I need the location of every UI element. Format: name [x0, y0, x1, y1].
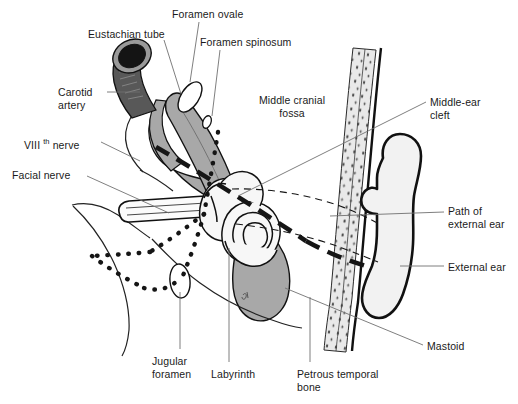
labyrinth-group: [200, 171, 281, 266]
contour-mastoid-tip: [272, 320, 302, 328]
label-foramen-ovale: Foramen ovale: [172, 8, 243, 21]
leader-foramen-ovale: [190, 22, 199, 82]
label-viii-nerve: VIII th nerve: [24, 136, 79, 151]
dotted-lower: [92, 256, 144, 288]
foramen-spinosum: [201, 115, 213, 130]
label-external-ear: External ear: [448, 261, 506, 274]
label-jugular-foramen: Jugular foramen: [152, 355, 191, 380]
label-petrous-temporal-bone: Petrous temporal bone: [297, 368, 379, 393]
label-middle-ear-cleft: Middle-ear cleft: [430, 96, 481, 121]
contour-upper-left: [126, 117, 143, 172]
leader-eustachian-tube: [164, 40, 181, 94]
contour-lower-jaw: [122, 330, 129, 356]
label-middle-cranial-fossa: Middle cranial fossa: [249, 94, 335, 119]
label-carotid-artery: Carotid artery: [58, 86, 93, 111]
ordinal-suffix: th: [43, 137, 49, 146]
label-eustachian-tube: Eustachian tube: [88, 28, 165, 41]
label-facial-nerve: Facial nerve: [12, 169, 70, 182]
leader-foramen-spinosum: [212, 50, 220, 116]
anatomical-figure: Eustachian tube Foramen ovale Foramen sp…: [0, 0, 518, 404]
label-labyrinth: Labyrinth: [211, 368, 255, 381]
label-foramen-spinosum: Foramen spinosum: [200, 36, 291, 49]
label-path-of-external-ear: Path of external ear: [448, 205, 505, 230]
contour-mandible: [73, 206, 129, 330]
carotid-artery-group: [107, 32, 157, 118]
contour-nerve-canal: [140, 170, 173, 191]
leader-viii-nerve: [101, 142, 140, 161]
dotted-horizontal: [92, 252, 150, 256]
label-mastoid: Mastoid: [427, 340, 464, 353]
